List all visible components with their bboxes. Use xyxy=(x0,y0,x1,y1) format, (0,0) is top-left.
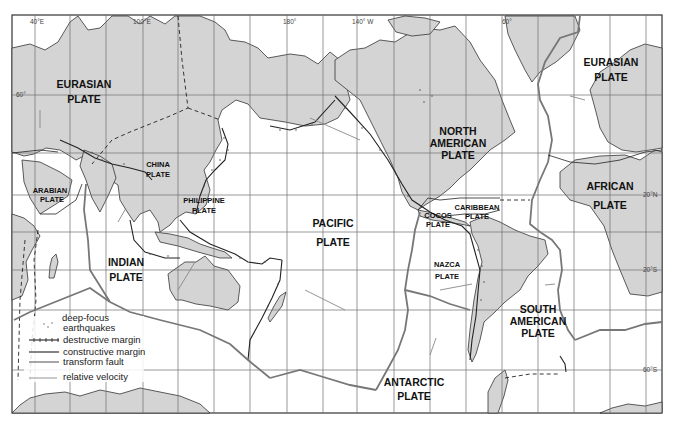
tectonic-plate-map: 40°E 100°E 180° 140° W 60° 60° 20°N 20°S… xyxy=(0,0,675,425)
label-indian-plate-2: PLATE xyxy=(109,271,143,283)
label-nazca-plate: NAZCA xyxy=(434,260,461,269)
label-indian-plate: INDIAN xyxy=(108,256,144,268)
lat-label-60n: 60° xyxy=(16,91,26,98)
label-philippine-plate-2: PLATE xyxy=(192,206,216,215)
label-china-plate-2: PLATE xyxy=(146,170,170,179)
label-african-plate-2: PLATE xyxy=(593,199,627,211)
label-north-american-plate-3: PLATE xyxy=(441,149,475,161)
label-caribbean-plate: CARIBBEAN xyxy=(455,203,500,212)
label-nazca-plate-2: PLATE xyxy=(435,272,459,281)
legend-destructive-label: destructive margin xyxy=(63,334,141,345)
label-african-plate: AFRICAN xyxy=(586,180,633,192)
label-eurasian-plate-west: EURASIAN xyxy=(57,78,112,90)
lat-label-60s: 60°S xyxy=(643,366,658,373)
lon-label-100e: 100°E xyxy=(133,18,151,25)
label-north-american-plate-2: AMERICAN xyxy=(430,137,487,149)
label-south-american-plate: SOUTH xyxy=(520,303,557,315)
lon-label-40e: 40°E xyxy=(30,18,45,25)
lon-label-140w: 140° W xyxy=(352,18,374,25)
label-philippine-plate: PHILIPPINE xyxy=(183,196,225,205)
label-eurasian-plate-east: EURASIAN xyxy=(584,56,639,68)
lat-label-20n: 20°N xyxy=(643,191,658,198)
label-arabian-plate-2: PLATE xyxy=(40,195,64,204)
label-eurasian-plate-east-2: PLATE xyxy=(594,71,628,83)
label-south-american-plate-3: PLATE xyxy=(521,327,555,339)
label-china-plate: CHINA xyxy=(146,160,170,169)
legend-transform-label: transform fault xyxy=(63,356,124,367)
lon-label-180: 180° xyxy=(283,18,297,25)
legend-velocity-label: relative velocity xyxy=(63,371,128,382)
label-arabian-plate: ARABIAN xyxy=(33,186,68,195)
label-pacific-plate: PACIFIC xyxy=(312,217,354,229)
label-antarctic-plate-2: PLATE xyxy=(397,390,431,402)
label-north-american-plate: NORTH xyxy=(439,125,476,137)
lon-label-60w: 60° xyxy=(502,18,512,25)
label-caribbean-plate-2: PLATE xyxy=(465,212,489,221)
legend: deep-focus earthquakes destructive margi… xyxy=(24,312,145,382)
label-south-american-plate-2: AMERICAN xyxy=(510,315,567,327)
label-antarctic-plate: ANTARCTIC xyxy=(384,376,445,388)
legend-earthquakes-label: earthquakes xyxy=(63,322,116,333)
label-cocos-plate: COCOS xyxy=(424,211,452,220)
lat-label-20s: 20°S xyxy=(643,266,658,273)
label-pacific-plate-2: PLATE xyxy=(316,236,350,248)
label-cocos-plate-2: PLATE xyxy=(426,220,450,229)
label-eurasian-plate-west-2: PLATE xyxy=(67,93,101,105)
